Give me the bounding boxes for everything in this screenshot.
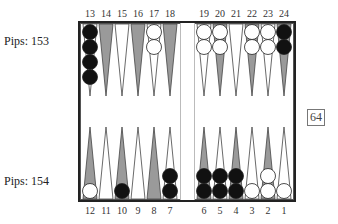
white-checker[interactable]	[277, 184, 292, 199]
black-checker[interactable]	[115, 184, 130, 199]
white-checker[interactable]	[83, 184, 98, 199]
black-checker[interactable]	[277, 40, 292, 55]
white-checker[interactable]	[261, 169, 276, 184]
black-checker[interactable]	[83, 25, 98, 40]
white-checker[interactable]	[245, 40, 260, 55]
black-checker[interactable]	[163, 169, 178, 184]
white-checker[interactable]	[245, 184, 260, 199]
black-checker[interactable]	[83, 40, 98, 55]
black-checker[interactable]	[277, 25, 292, 40]
black-checker[interactable]	[83, 70, 98, 85]
white-checker[interactable]	[197, 40, 212, 55]
black-checker[interactable]	[213, 169, 228, 184]
black-checker[interactable]	[229, 184, 244, 199]
black-checker[interactable]	[163, 184, 178, 199]
white-checker[interactable]	[245, 25, 260, 40]
white-checker[interactable]	[147, 40, 162, 55]
black-checker[interactable]	[83, 55, 98, 70]
white-checker[interactable]	[147, 25, 162, 40]
white-checker[interactable]	[261, 40, 276, 55]
white-checker[interactable]	[197, 25, 212, 40]
black-checker[interactable]	[197, 169, 212, 184]
white-checker[interactable]	[261, 184, 276, 199]
black-checker[interactable]	[197, 184, 212, 199]
black-checker[interactable]	[213, 184, 228, 199]
checkers-layer	[0, 0, 338, 224]
doubling-cube[interactable]: 64	[307, 109, 325, 126]
white-checker[interactable]	[261, 25, 276, 40]
white-checker[interactable]	[213, 40, 228, 55]
white-checker[interactable]	[213, 25, 228, 40]
black-checker[interactable]	[229, 169, 244, 184]
